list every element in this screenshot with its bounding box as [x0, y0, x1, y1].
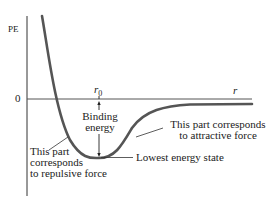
attractive-force-label: This part corresponds to attractive forc… [160, 119, 276, 141]
r0-label: r0 [94, 84, 102, 99]
x-axis-label: r [233, 85, 237, 96]
r0-subscript: 0 [98, 89, 102, 98]
zero-label: 0 [15, 93, 21, 104]
y-axis-label: PE [8, 24, 19, 35]
repulsive-line3: to repulsive force [30, 168, 107, 179]
attractive-leader [136, 128, 163, 137]
repulsive-force-label: This part corresponds to repulsive force [30, 146, 107, 179]
binding-energy-label: Binding energy [80, 111, 120, 133]
attractive-line2: to attractive force [160, 130, 276, 141]
lowest-energy-state-label: Lowest energy state [136, 152, 224, 163]
binding-energy-line2: energy [80, 122, 120, 133]
arrow-up-head [97, 101, 100, 105]
